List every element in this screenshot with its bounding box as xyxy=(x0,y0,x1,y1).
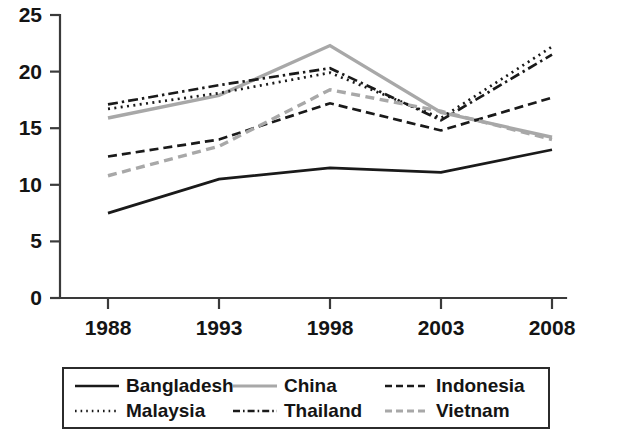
y-tick-label: 25 xyxy=(19,3,43,26)
legend-label-thailand: Thailand xyxy=(284,401,362,420)
x-tick-label: 2008 xyxy=(529,316,576,339)
legend-item-china: China xyxy=(232,376,384,395)
legend-swatch-bangladesh-icon xyxy=(74,379,120,393)
x-tick-label: 1998 xyxy=(307,316,354,339)
series-line-malaysia xyxy=(108,47,552,118)
legend-swatch-indonesia-icon xyxy=(384,379,430,393)
legend-label-china: China xyxy=(284,376,337,395)
x-tick-label: 2003 xyxy=(418,316,465,339)
y-tick-label: 20 xyxy=(19,60,42,83)
legend-item-bangladesh: Bangladesh xyxy=(74,376,232,395)
legend-swatch-malaysia-icon xyxy=(74,404,120,418)
line-chart: 0510152025 19881993199820032008 Banglade… xyxy=(0,0,622,437)
y-tick-label: 10 xyxy=(19,173,42,196)
x-tick-label: 1993 xyxy=(196,316,243,339)
data-series-group xyxy=(108,46,552,214)
legend-swatch-thailand-icon xyxy=(232,404,278,418)
legend-item-malaysia: Malaysia xyxy=(74,401,232,420)
legend-swatch-china-icon xyxy=(232,379,278,393)
legend-item-vietnam: Vietnam xyxy=(384,401,552,420)
x-tick-label: 1988 xyxy=(85,316,132,339)
legend-label-bangladesh: Bangladesh xyxy=(126,376,234,395)
legend-label-malaysia: Malaysia xyxy=(126,401,205,420)
chart-plot-area: 0510152025 19881993199820032008 xyxy=(0,0,622,360)
legend-item-indonesia: Indonesia xyxy=(384,376,552,395)
y-tick-label: 15 xyxy=(19,116,43,139)
chart-legend: Bangladesh China Indonesia Malaysia xyxy=(62,367,550,429)
series-line-indonesia xyxy=(108,98,552,157)
legend-label-vietnam: Vietnam xyxy=(436,401,510,420)
x-axis: 19881993199820032008 xyxy=(60,298,576,339)
series-line-thailand xyxy=(108,55,552,121)
series-line-bangladesh xyxy=(108,150,552,213)
y-axis: 0510152025 xyxy=(19,3,60,309)
legend-item-thailand: Thailand xyxy=(232,401,384,420)
legend-swatch-vietnam-icon xyxy=(384,404,430,418)
y-tick-label: 0 xyxy=(30,286,42,309)
legend-label-indonesia: Indonesia xyxy=(436,376,525,395)
y-tick-label: 5 xyxy=(30,229,42,252)
